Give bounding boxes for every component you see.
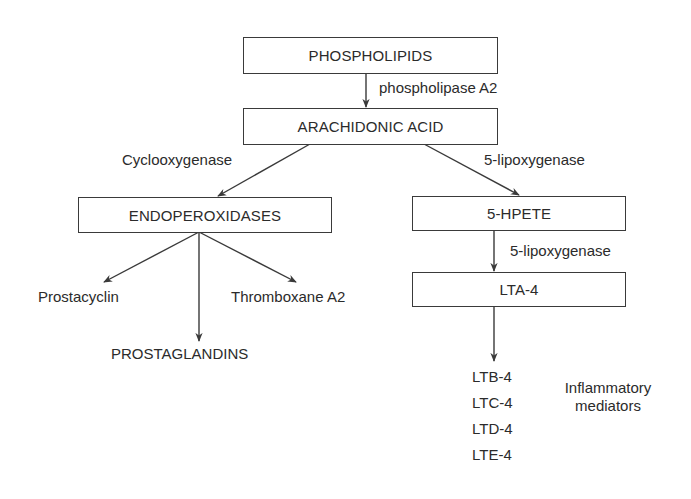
node-phospholipids: PHOSPHOLIPIDS	[243, 37, 498, 74]
node-thromboxane-a2: Thromboxane A2	[231, 289, 345, 304]
node-5-hpete: 5-HPETE	[412, 196, 626, 231]
node-arachidonic-acid: ARACHIDONIC ACID	[243, 108, 498, 145]
pathway-diagram: PHOSPHOLIPIDS ARACHIDONIC ACID ENDOPEROX…	[0, 0, 691, 499]
node-endoperoxidases-label: ENDOPEROXIDASES	[129, 207, 281, 224]
node-phospholipids-label: PHOSPHOLIPIDS	[309, 47, 433, 64]
node-5-hpete-label: 5-HPETE	[487, 205, 551, 222]
node-prostaglandins: PROSTAGLANDINS	[111, 346, 248, 361]
node-lta-4: LTA-4	[412, 272, 626, 307]
node-endoperoxidases: ENDOPEROXIDASES	[78, 197, 332, 233]
node-arachidonic-acid-label: ARACHIDONIC ACID	[298, 118, 444, 135]
annotation-line-1: Inflammatory	[553, 379, 663, 397]
edge-endoperoxidases-thromboxane	[199, 232, 296, 282]
node-ltd-4: LTD-4	[472, 421, 513, 436]
edge-label-5-lipoxygenase-2: 5-lipoxygenase	[510, 243, 611, 258]
edge-label-cyclooxygenase: Cyclooxygenase	[122, 152, 232, 167]
node-prostacyclin: Prostacyclin	[38, 289, 119, 304]
node-lte-4: LTE-4	[472, 447, 512, 462]
node-ltb-4: LTB-4	[472, 369, 512, 384]
annotation-line-2: mediators	[553, 397, 663, 415]
edge-label-5-lipoxygenase-1: 5-lipoxygenase	[484, 152, 585, 167]
edge-label-phospholipase: phospholipase A2	[379, 80, 497, 95]
node-lta-4-label: LTA-4	[499, 281, 538, 298]
node-ltc-4: LTC-4	[472, 395, 513, 410]
annotation-inflammatory-mediators: Inflammatory mediators	[553, 379, 663, 415]
edge-endoperoxidases-prostacyclin	[104, 232, 199, 282]
